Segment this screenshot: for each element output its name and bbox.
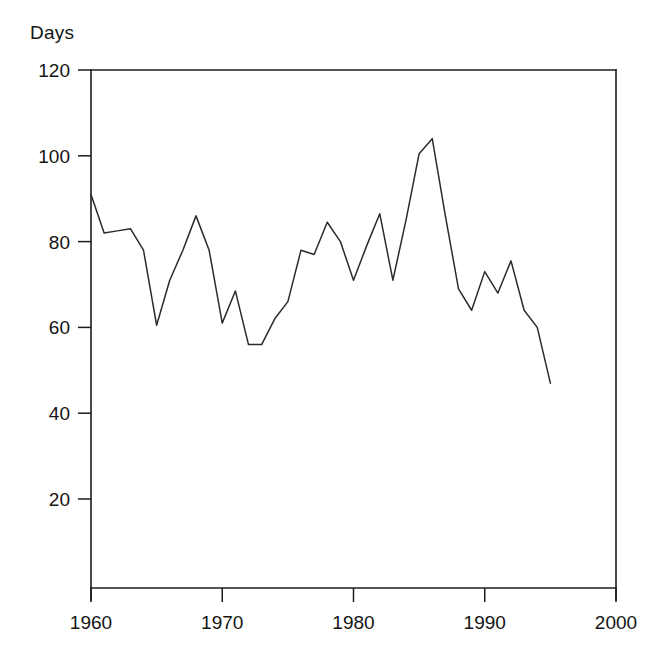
y-tick-label: 100 xyxy=(38,146,70,167)
x-tick-label: 2000 xyxy=(595,612,637,633)
line-chart-plot: 20406080100120 19601970198019902000 xyxy=(0,0,664,666)
y-tick-label: 20 xyxy=(49,489,70,510)
chart-figure: Days 20406080100120 19601970198019902000 xyxy=(0,0,664,666)
x-tick-label: 1960 xyxy=(70,612,112,633)
y-tick-label: 40 xyxy=(49,403,70,424)
x-tick-label: 1970 xyxy=(201,612,243,633)
axes-frame xyxy=(91,70,616,600)
y-tick-group: 20406080100120 xyxy=(38,60,91,510)
y-tick-label: 60 xyxy=(49,317,70,338)
y-tick-label: 80 xyxy=(49,232,70,253)
data-series-line xyxy=(91,139,550,384)
x-tick-group: 19601970198019902000 xyxy=(70,588,637,633)
x-tick-label: 1990 xyxy=(464,612,506,633)
x-tick-label: 1980 xyxy=(332,612,374,633)
y-tick-label: 120 xyxy=(38,60,70,81)
